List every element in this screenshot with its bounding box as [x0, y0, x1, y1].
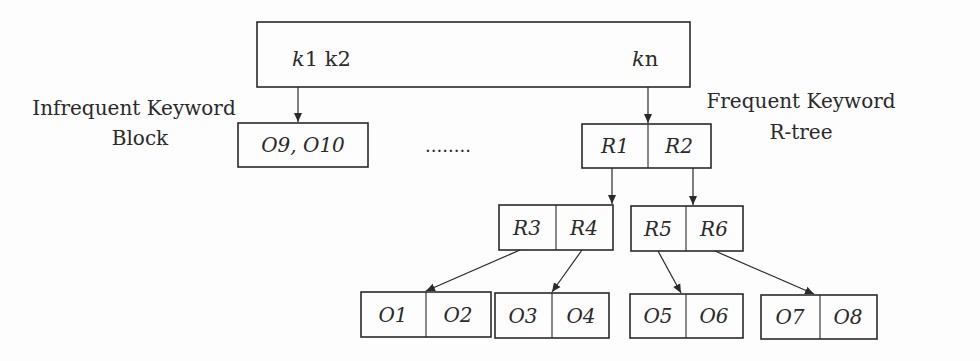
- entry-o6: O6: [699, 304, 728, 328]
- key-kn: kn: [632, 47, 658, 71]
- entry-o5: O5: [643, 304, 672, 328]
- arrow-r3-to-o1o2: [426, 250, 520, 291]
- entry-r5: R5: [643, 217, 672, 241]
- arrow-r6-to-o7o8: [715, 251, 814, 294]
- entry-o3: O3: [508, 304, 537, 328]
- diagram-canvas: k1 k2 kn Infrequent Keyword Block Freque…: [0, 0, 980, 361]
- diagram-svg: k1 k2 kn Infrequent Keyword Block Freque…: [0, 0, 980, 361]
- ellipsis: ........: [425, 135, 471, 156]
- entry-r4: R4: [569, 216, 598, 240]
- entry-r3: R3: [512, 216, 541, 240]
- entry-o2: O2: [443, 303, 472, 327]
- entry-o7: O7: [775, 305, 804, 329]
- infrequent-label-line2: Block: [112, 126, 169, 150]
- arrow-r4-to-o3o4: [552, 250, 582, 292]
- frequent-label-line1: Frequent Keyword: [706, 89, 895, 113]
- entry-o4: O4: [566, 304, 595, 328]
- entry-o8: O8: [833, 305, 862, 329]
- key-k1-k2: k1 k2: [292, 47, 351, 71]
- frequent-label-line2: R-tree: [769, 120, 832, 144]
- entry-r6: R6: [699, 217, 728, 241]
- arrow-r5-to-o5o6: [658, 251, 681, 293]
- entry-r1: R1: [600, 134, 629, 158]
- infrequent-label-line1: Infrequent Keyword: [32, 96, 236, 120]
- entry-o1: O1: [378, 303, 407, 327]
- entry-r2: R2: [664, 134, 693, 158]
- infrequent-block-objects: O9, O10: [261, 133, 345, 157]
